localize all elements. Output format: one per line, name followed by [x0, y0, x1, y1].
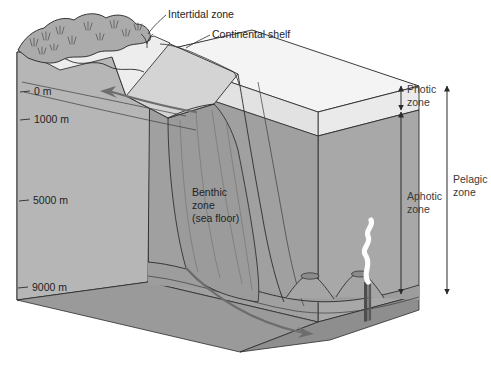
benthic-zone-line1: Benthic [192, 186, 227, 198]
pelagic-zone-line1: Pelagic [453, 173, 487, 185]
pelagic-zone-line2: zone [453, 186, 476, 198]
photic-zone-line1: Photic [407, 83, 436, 95]
intertidal-zone-label: Intertidal zone [168, 8, 234, 20]
continental-shelf-label: Continental shelf [212, 28, 290, 40]
ocean-zones-diagram: 0 m 1000 m 5000 m 9000 m Intertidal zone [0, 0, 491, 382]
photic-zone-line2: zone [407, 96, 430, 108]
depth-label-0m: 0 m [34, 85, 52, 97]
aphotic-zone-line1: Aphotic [407, 190, 442, 202]
depth-label-1000m: 1000 m [34, 113, 69, 125]
depth-label-5000m: 5000 m [33, 194, 68, 206]
depth-label-9000m: 9000 m [32, 281, 67, 293]
benthic-zone-line2: zone [192, 199, 215, 211]
pelagic-zone-measure: Pelagic zone [447, 86, 487, 294]
benthic-zone-line3: (sea floor) [192, 212, 239, 224]
figure-canvas: 0 m 1000 m 5000 m 9000 m Intertidal zone [0, 0, 491, 382]
aphotic-zone-line2: zone [407, 203, 430, 215]
photic-zone-measure: Photic zone [401, 83, 436, 110]
